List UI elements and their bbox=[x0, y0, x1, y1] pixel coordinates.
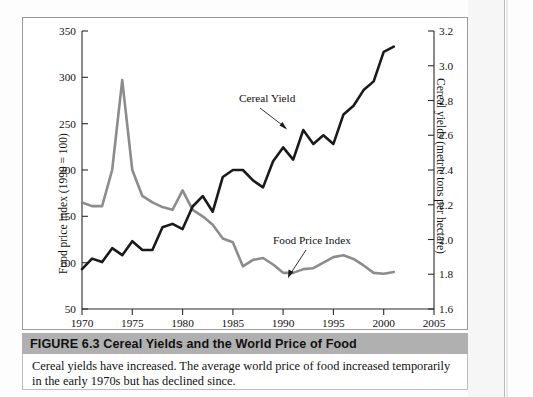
page-gutter-shadow bbox=[506, 0, 508, 397]
cereal-yield-label: Cereal Yield bbox=[239, 92, 296, 104]
cereal-yield-arrowhead bbox=[280, 122, 288, 130]
page-margin bbox=[468, 0, 504, 397]
page-gutter-line bbox=[504, 0, 505, 397]
y-axis-right-ticks bbox=[428, 31, 434, 309]
x-tick-label: 2005 bbox=[423, 317, 446, 329]
y-tick-label: 350 bbox=[59, 25, 76, 37]
y2-tick-label: 3.2 bbox=[439, 25, 453, 37]
y-tick-label: 50 bbox=[65, 303, 77, 315]
x-tick-label: 1975 bbox=[121, 317, 144, 329]
plot-area: 350 300 250 200 150 100 50 3.2 3.0 2.8 2… bbox=[23, 18, 469, 331]
y2-tick-label: 1.8 bbox=[439, 268, 453, 280]
figure-caption: Cereal yields have increased. The averag… bbox=[32, 359, 458, 388]
y2-tick-label: 1.6 bbox=[439, 303, 453, 315]
x-axis-ticks bbox=[82, 309, 434, 315]
x-tick-label: 1970 bbox=[71, 317, 94, 329]
figure-caption-box: Cereal yields have increased. The averag… bbox=[22, 354, 468, 390]
y-axis-left-title: Food price index (1990 = 100) bbox=[57, 94, 69, 274]
food-price-index-label: Food Price Index bbox=[273, 234, 351, 246]
figure-title: FIGURE 6.3 Cereal Yields and the World P… bbox=[22, 337, 357, 351]
cereal-yield-annotation: Cereal Yield bbox=[239, 92, 296, 130]
x-tick-label: 1995 bbox=[322, 317, 345, 329]
y-axis-right-title: Cereal yields (metric tons per hectare) bbox=[435, 78, 447, 254]
x-tick-label: 1985 bbox=[222, 317, 245, 329]
figure-title-bar: FIGURE 6.3 Cereal Yields and the World P… bbox=[22, 333, 468, 354]
x-tick-label: 1990 bbox=[272, 317, 295, 329]
chart-svg: 350 300 250 200 150 100 50 3.2 3.0 2.8 2… bbox=[23, 18, 469, 331]
x-tick-label: 2000 bbox=[372, 317, 395, 329]
figure-6-3: 350 300 250 200 150 100 50 3.2 3.0 2.8 2… bbox=[22, 17, 468, 390]
chart-frame: 350 300 250 200 150 100 50 3.2 3.0 2.8 2… bbox=[22, 17, 468, 330]
page-background: 350 300 250 200 150 100 50 3.2 3.0 2.8 2… bbox=[0, 0, 533, 397]
y-tick-label: 300 bbox=[59, 71, 76, 83]
axis-lines bbox=[82, 31, 434, 309]
x-axis-tick-labels: 1970 1975 1980 1985 1990 1995 2000 2005 bbox=[71, 317, 446, 329]
y2-tick-label: 3.0 bbox=[439, 60, 453, 72]
x-tick-label: 1980 bbox=[171, 317, 194, 329]
